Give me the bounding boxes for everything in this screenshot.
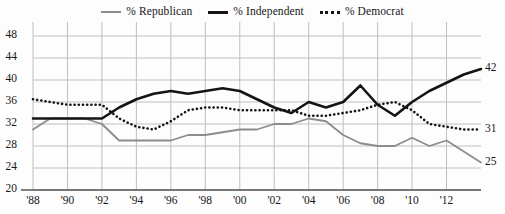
x-axis-tick-label: '12	[427, 194, 467, 206]
y-axis-tick-label: 24	[0, 160, 17, 172]
plot-area: 2024283236404448 '88'90'92'94'96'98'00'0…	[0, 22, 505, 214]
y-axis-tick-label: 20	[0, 182, 17, 194]
y-axis-tick-label: 32	[0, 116, 17, 128]
y-axis-tick-label: 36	[0, 94, 17, 106]
legend-label-independent: % Independent	[233, 5, 304, 17]
end-label-independent: 42	[485, 61, 497, 73]
chart-legend: % Republican % Independent % Democrat	[0, 0, 505, 22]
y-axis-tick-label: 48	[0, 28, 17, 40]
end-label-republican: 25	[485, 155, 497, 167]
series-layer	[33, 69, 481, 163]
legend-item-republican: % Republican	[101, 5, 192, 17]
legend-label-democrat: % Democrat	[345, 5, 404, 17]
plot-svg	[0, 22, 505, 214]
dotted-black-line-icon	[320, 6, 340, 16]
end-label-democrat: 31	[485, 122, 497, 134]
solid-gray-line-icon	[101, 6, 121, 16]
legend-label-republican: % Republican	[126, 5, 192, 17]
solid-black-line-icon	[208, 6, 228, 16]
y-axis-tick-label: 44	[0, 50, 17, 62]
legend-item-democrat: % Democrat	[320, 5, 404, 17]
series-line-democrat	[33, 99, 481, 129]
series-line-republican	[33, 119, 481, 163]
y-axis-tick-label: 40	[0, 72, 17, 84]
y-axis-tick-label: 28	[0, 138, 17, 150]
legend-item-independent: % Independent	[208, 5, 304, 17]
line-chart: % Republican % Independent % Democrat 20…	[0, 0, 505, 214]
